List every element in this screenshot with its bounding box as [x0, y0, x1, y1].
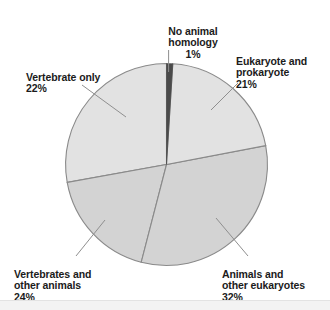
pie-label-eukaryote-and-prokaryote-line1: Eukaryote and [236, 55, 307, 67]
pie-label-no-animal-homology-line2: homology [168, 36, 217, 48]
pie-label-eukaryote-and-prokaryote-value: 21% [236, 79, 328, 91]
pie-label-no-animal-homology-line1: No animal [168, 25, 217, 37]
pie-label-no-animal-homology-value: 1% [150, 49, 236, 61]
pie-label-vertebrates-and-other-animals-line2: other animals [14, 279, 81, 291]
pie-label-vertebrate-only-line1: Vertebrate only [26, 71, 100, 83]
pie-label-animals-and-other-eukaryotes-line2: other eukaryotes [222, 279, 305, 291]
pie-label-animals-and-other-eukaryotes-line1: Animals and [222, 268, 283, 280]
pie-label-eukaryote-and-prokaryote: Eukaryote and prokaryote 21% [236, 44, 328, 102]
figure-footer-rule [0, 300, 330, 310]
pie-chart-figure: No animal homology 1% Eukaryote and prok… [0, 0, 330, 310]
pie-label-no-animal-homology: No animal homology 1% [150, 14, 236, 72]
pie-label-vertebrates-and-other-animals-line1: Vertebrates and [14, 268, 91, 280]
pie-label-eukaryote-and-prokaryote-line2: prokaryote [236, 66, 289, 78]
pie-label-vertebrate-only: Vertebrate only 22% [26, 60, 130, 106]
pie-label-vertebrate-only-value: 22% [26, 83, 130, 95]
